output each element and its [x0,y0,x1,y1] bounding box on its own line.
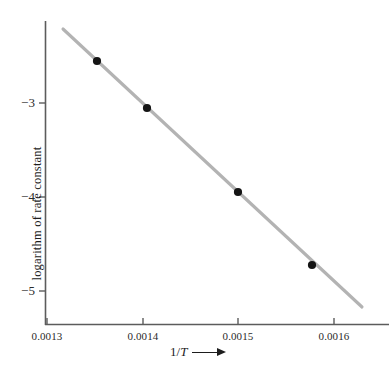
data-point [143,104,151,112]
x-axis-title: 1/T [170,344,226,360]
data-point [93,57,101,65]
x-tick-label-0p0014: 0.0014 [128,330,159,342]
data-point [234,188,242,196]
x-axis-title-prefix: 1/ [170,344,180,359]
x-axis-title-variable: T [180,344,187,359]
x-tick-label-0p0016: 0.0016 [319,330,350,342]
chart-plot-area [0,0,390,366]
x-axis-title-text: 1/T [170,344,187,360]
best-fit-line [63,29,362,307]
chart-container: −3 −4 −5 0.0013 0.0014 0.0015 0.0016 1/T… [0,0,390,366]
arrow-right-icon [192,348,226,357]
data-point [308,261,316,269]
y-axis-title: logarithm of rate constant [30,114,45,314]
x-tick-label-0p0013: 0.0013 [32,330,63,342]
y-tick-label-minus3: −3 [7,95,35,111]
x-tick-label-0p0015: 0.0015 [223,330,254,342]
